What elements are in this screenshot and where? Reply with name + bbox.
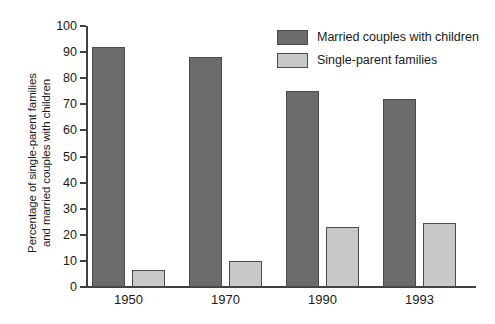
- y-tick-mark: [80, 286, 86, 288]
- x-tick-label-1993: 1993: [375, 292, 465, 308]
- y-tick-label: 70: [63, 97, 77, 111]
- y-tick-mark: [80, 182, 86, 184]
- y-tick-mark: [80, 77, 86, 79]
- y-tick-70: 70: [45, 97, 86, 111]
- y-tick-mark: [80, 208, 86, 210]
- y-tick-mark: [80, 234, 86, 236]
- y-tick-mark: [80, 103, 86, 105]
- legend-swatch-icon-single: [277, 53, 308, 68]
- bar-1990-single: [326, 227, 359, 287]
- y-tick-30: 30: [45, 202, 86, 216]
- y-tick-mark: [80, 51, 86, 53]
- y-tick-20: 20: [45, 228, 86, 242]
- y-tick-label: 80: [63, 71, 77, 85]
- y-tick-label: 50: [63, 150, 77, 164]
- legend-item-single: Single-parent families: [277, 50, 479, 70]
- bar-1950-married: [92, 47, 125, 287]
- y-tick-40: 40: [45, 176, 86, 190]
- legend-swatch-icon-married: [277, 30, 308, 45]
- legend-label-single: Single-parent families: [317, 53, 437, 68]
- y-tick-label: 100: [56, 19, 77, 33]
- y-tick-label: 40: [63, 176, 77, 190]
- bar-1993-married: [383, 99, 416, 287]
- y-tick-label: 60: [63, 123, 77, 137]
- bar-1990-married: [286, 91, 319, 287]
- legend-label-married: Married couples with children: [317, 30, 479, 45]
- y-tick-0: 0: [45, 280, 86, 294]
- y-tick-mark: [80, 156, 86, 158]
- y-tick-10: 10: [45, 254, 86, 268]
- y-tick-90: 90: [45, 45, 86, 59]
- x-tick-label-1990: 1990: [278, 292, 368, 308]
- y-tick-label: 90: [63, 45, 77, 59]
- legend-item-married: Married couples with children: [277, 27, 479, 47]
- y-tick-label: 30: [63, 202, 77, 216]
- bar-1970-married: [189, 57, 222, 287]
- y-axis-title-line-1: Percentage of single-parent families: [25, 73, 40, 253]
- bar-1993-single: [423, 223, 456, 287]
- bar-1970-single: [229, 261, 262, 287]
- y-tick-60: 60: [45, 123, 86, 137]
- x-tick-label-1970: 1970: [181, 292, 271, 308]
- bar-1950-single: [132, 270, 165, 287]
- bar-chart: Percentage of single-parent families and…: [0, 0, 495, 324]
- legend: Married couples with children Single-par…: [277, 27, 479, 73]
- y-tick-100: 100: [45, 19, 86, 33]
- y-tick-50: 50: [45, 150, 86, 164]
- y-tick-label: 10: [63, 254, 77, 268]
- y-tick-mark: [80, 25, 86, 27]
- y-tick-mark: [80, 260, 86, 262]
- x-tick-label-1950: 1950: [84, 292, 174, 308]
- y-tick-label: 20: [63, 228, 77, 242]
- y-tick-label: 0: [70, 280, 77, 294]
- y-tick-80: 80: [45, 71, 86, 85]
- y-tick-mark: [80, 129, 86, 131]
